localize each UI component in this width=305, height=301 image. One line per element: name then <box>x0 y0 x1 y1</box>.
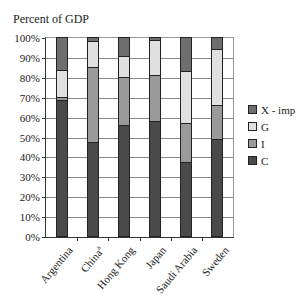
legend: X - impGIC <box>248 101 295 169</box>
legend-item: C <box>248 152 295 169</box>
gridline <box>46 197 233 198</box>
y-tick-mark <box>42 58 46 59</box>
bar-segment-g <box>56 70 68 98</box>
x-tick-label: Chinaa <box>78 244 107 275</box>
y-tick-label: 100% <box>0 32 40 44</box>
y-tick-label: 60% <box>0 112 40 124</box>
gridline <box>46 118 233 119</box>
legend-item: X - imp <box>248 101 295 118</box>
y-tick-mark <box>42 38 46 39</box>
y-tick-label: 80% <box>0 72 40 84</box>
y-tick-mark <box>42 118 46 119</box>
gridline <box>46 58 233 59</box>
legend-label: X - imp <box>261 104 295 116</box>
bar-segment-i <box>180 123 192 164</box>
y-tick-label: 20% <box>0 191 40 203</box>
x-tick-mark <box>140 237 141 241</box>
gridline <box>46 157 233 158</box>
legend-label: I <box>261 138 265 150</box>
y-tick-mark <box>42 197 46 198</box>
x-tick-mark <box>171 237 172 241</box>
legend-item: G <box>248 118 295 135</box>
bar-china <box>87 38 99 237</box>
legend-item: I <box>248 135 295 152</box>
gridline <box>46 177 233 178</box>
y-tick-mark <box>42 177 46 178</box>
bar-hong-kong <box>118 38 130 237</box>
bar-segment-x-imp <box>118 37 130 57</box>
legend-swatch <box>248 122 257 131</box>
x-tick-mark <box>77 237 78 241</box>
bar-segment-g <box>118 56 130 78</box>
plot-area <box>45 37 234 238</box>
gridline <box>46 98 233 99</box>
legend-swatch <box>248 105 257 114</box>
y-tick-mark <box>42 78 46 79</box>
bar-segment-i <box>118 77 130 126</box>
legend-label: C <box>261 155 268 167</box>
bar-sweden <box>211 38 223 237</box>
bar-segment-g <box>87 41 99 68</box>
legend-swatch <box>248 156 257 165</box>
bar-segment-g <box>211 49 223 106</box>
y-tick-label: 70% <box>0 92 40 104</box>
x-tick-label: Sweden <box>199 244 231 278</box>
bar-saudi-arabia <box>180 38 192 237</box>
bar-segment-i <box>211 105 223 140</box>
bar-segment-c <box>118 125 130 237</box>
bar-segment-x-imp <box>56 37 68 71</box>
bar-segment-c <box>56 100 68 237</box>
bar-segment-g <box>149 40 161 76</box>
bar-segment-c <box>180 162 192 237</box>
y-tick-label: 0% <box>0 231 40 243</box>
x-tick-mark <box>202 237 203 241</box>
bar-segment-c <box>211 139 223 238</box>
bar-segment-i <box>87 67 99 144</box>
footnote-marker: a <box>95 244 103 252</box>
y-tick-mark <box>42 157 46 158</box>
y-tick-label: 40% <box>0 151 40 163</box>
bar-segment-c <box>149 121 161 237</box>
bar-segment-c <box>87 142 99 237</box>
bar-segment-g <box>180 71 192 124</box>
x-tick-label: Argentina <box>37 244 74 285</box>
y-tick-label: 10% <box>0 211 40 223</box>
gridline <box>46 217 233 218</box>
gridline <box>46 78 233 79</box>
bar-japan <box>149 38 161 237</box>
x-tick-mark <box>108 237 109 241</box>
legend-swatch <box>248 139 257 148</box>
legend-label: G <box>261 121 269 133</box>
y-tick-mark <box>42 138 46 139</box>
bar-argentina <box>56 38 68 237</box>
y-tick-mark <box>42 237 46 238</box>
x-tick-label: Japan <box>143 244 168 271</box>
bar-segment-x-imp <box>180 37 192 72</box>
y-tick-label: 50% <box>0 132 40 144</box>
y-axis-title: Percent of GDP <box>13 12 89 27</box>
gridline <box>46 138 233 139</box>
bar-segment-i <box>149 75 161 122</box>
y-tick-mark <box>42 98 46 99</box>
y-tick-label: 30% <box>0 171 40 183</box>
y-tick-mark <box>42 217 46 218</box>
y-tick-label: 90% <box>0 52 40 64</box>
